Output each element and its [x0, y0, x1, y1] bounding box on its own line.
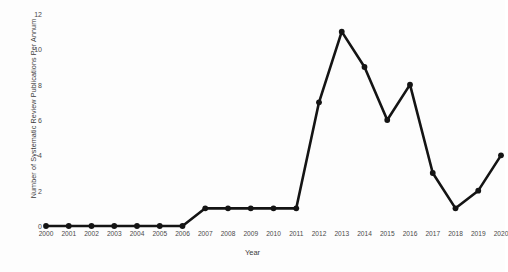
x-tick-label: 2012: [312, 230, 327, 237]
x-tick-label: 2010: [266, 230, 281, 237]
data-point: [271, 205, 277, 211]
x-tick-label: 2007: [198, 230, 213, 237]
data-point: [316, 99, 322, 105]
data-point: [384, 117, 390, 123]
data-point: [248, 205, 254, 211]
series-line-publications: [46, 32, 501, 226]
data-point: [225, 205, 231, 211]
x-tick-label: 2017: [425, 230, 440, 237]
data-point: [202, 205, 208, 211]
x-axis-title: Year: [0, 248, 505, 257]
x-tick-label: 2020: [494, 230, 508, 237]
data-point: [407, 82, 413, 88]
data-point: [157, 223, 163, 229]
data-series-svg: [46, 14, 501, 226]
data-point: [430, 170, 436, 176]
x-tick-label: 2014: [357, 230, 372, 237]
x-tick-label: 2005: [152, 230, 167, 237]
y-tick-label: 12: [34, 11, 42, 18]
series-markers: [43, 29, 504, 229]
data-point: [180, 223, 186, 229]
data-point: [453, 205, 459, 211]
x-tick-label: 2013: [334, 230, 349, 237]
y-tick-label: 2: [38, 187, 42, 194]
data-point: [89, 223, 95, 229]
y-tick-label: 4: [38, 152, 42, 159]
x-tick-label: 2001: [61, 230, 76, 237]
x-tick-label: 2018: [448, 230, 463, 237]
x-tick-label: 2004: [130, 230, 145, 237]
y-axis-title: Number of Systematic Review Publications…: [29, 4, 38, 214]
x-tick-label: 2009: [243, 230, 258, 237]
data-point: [293, 205, 299, 211]
y-tick-label: 10: [34, 46, 42, 53]
x-tick-label: 2002: [84, 230, 99, 237]
y-tick-label: 6: [38, 117, 42, 124]
data-point: [134, 223, 140, 229]
x-tick-label: 2019: [471, 230, 486, 237]
x-tick-label: 2011: [289, 230, 303, 237]
data-point: [339, 29, 345, 35]
x-tick-label: 2006: [175, 230, 190, 237]
data-point: [498, 152, 504, 158]
data-point: [66, 223, 72, 229]
y-tick-label: 0: [38, 223, 42, 230]
plot-area: 024681012 200020012002200320042005200620…: [46, 14, 501, 226]
data-point: [111, 223, 117, 229]
x-tick-label: 2016: [403, 230, 418, 237]
x-tick-label: 2008: [221, 230, 236, 237]
x-tick-label: 2003: [107, 230, 122, 237]
data-point: [43, 223, 49, 229]
y-tick-label: 8: [38, 81, 42, 88]
x-tick-label: 2015: [380, 230, 395, 237]
x-tick-label: 2000: [39, 230, 54, 237]
data-point: [475, 188, 481, 194]
data-point: [362, 64, 368, 70]
